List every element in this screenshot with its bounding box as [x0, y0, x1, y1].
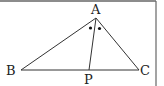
label-c: C [140, 63, 150, 78]
triangle-figure: A B C P [0, 0, 164, 86]
label-p: P [84, 72, 93, 86]
segment-ab [21, 18, 96, 70]
segment-ac [96, 18, 139, 70]
segment-ap [89, 18, 96, 70]
label-b: B [6, 63, 16, 78]
angle-mark-dot-right [98, 27, 101, 30]
angle-mark-dot-left [89, 26, 92, 29]
triangle-diagram: A B C P [0, 0, 164, 86]
label-a: A [90, 2, 101, 17]
